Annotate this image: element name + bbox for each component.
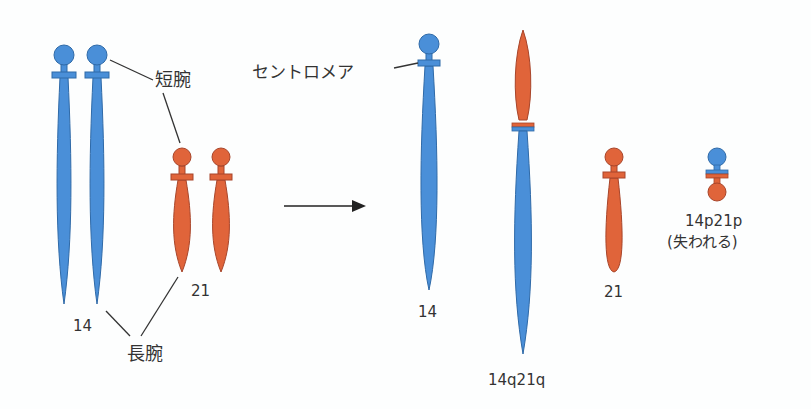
short-arm-label: 短腕 — [155, 69, 191, 90]
short-arm-leader-2 — [163, 93, 180, 143]
chromosome-14-label-before: 14 — [73, 317, 92, 335]
fusion-chromosome-14q21q — [512, 30, 534, 354]
chromosome-21-label-after: 21 — [604, 283, 623, 301]
chromosome-14-after — [418, 34, 440, 290]
lost-chromosome-note: (失われる) — [667, 233, 738, 251]
translocation-diagram: 短腕 長腕 14 21 セントロメア 14 14q21q — [0, 0, 811, 409]
chromosome-21-label-before: 21 — [191, 282, 210, 300]
chromosome-14-left — [52, 45, 76, 304]
long-arm-leader-1 — [106, 311, 130, 336]
centromere-leader — [394, 63, 418, 68]
chromosome-14-right — [85, 45, 109, 304]
fusion-chromosome-label: 14q21q — [488, 371, 545, 389]
translocation-arrow — [284, 200, 366, 212]
centromere-label: セントロメア — [252, 62, 354, 82]
chromosome-21-left — [171, 148, 193, 272]
diagram-canvas: 短腕 長腕 14 21 セントロメア 14 14q21q — [0, 0, 811, 409]
lost-chromosome-label: 14p21p — [685, 212, 742, 230]
chromosome-21-right — [210, 148, 232, 272]
chromosome-14-label-after: 14 — [418, 303, 437, 321]
short-arm-leader-1 — [110, 60, 153, 80]
long-arm-leader-2 — [141, 277, 178, 336]
long-arm-label: 長腕 — [127, 343, 163, 364]
chromosome-21-after — [603, 148, 625, 272]
small-chromosome-14p21p — [706, 148, 728, 201]
